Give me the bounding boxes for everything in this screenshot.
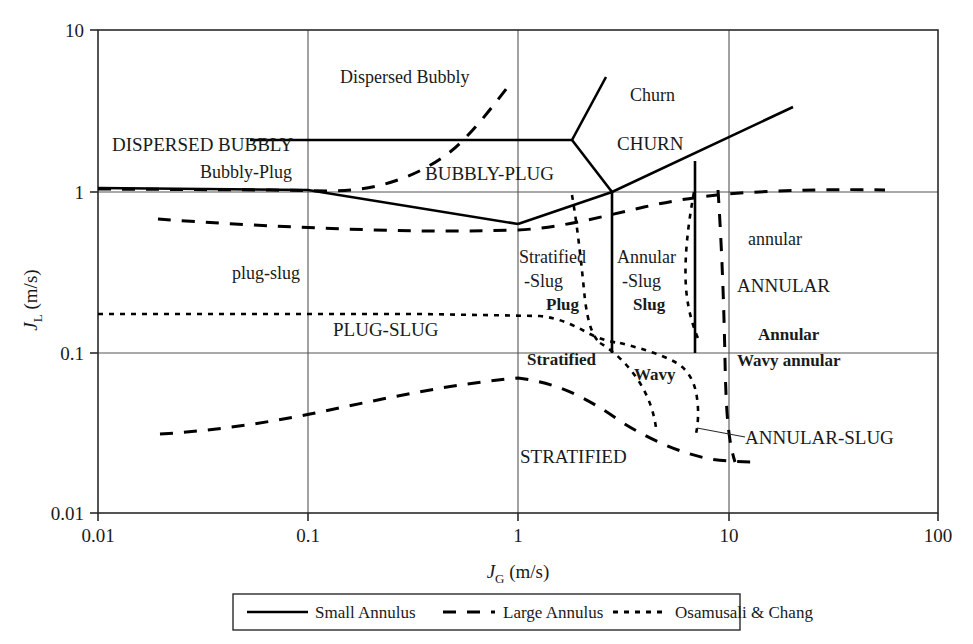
label-wavy-bold: Wavy: [634, 365, 676, 384]
label-bubbly-plug-mixed: Bubbly-Plug: [200, 162, 292, 182]
curve-slug-to-wavy-dotted: [600, 343, 656, 428]
label-plug-slug-caps: PLUG-SLUG: [333, 319, 439, 340]
flow-regime-map-figure: 10 1 0.1 0.01 0.01 0.1 1 10 100 JL (m/s): [0, 0, 973, 644]
label-bubbly-plug-caps: BUBBLY-PLUG: [425, 163, 554, 184]
label-plug-slug-mixed: plug-slug: [232, 263, 300, 283]
series-small-annulus: [98, 77, 793, 353]
label-plug-bold: Plug: [546, 295, 580, 314]
y-axis-title: JL (m/s): [20, 269, 45, 330]
legend-label-large-annulus: Large Annulus: [503, 603, 603, 622]
label-annular-slug-line1: Annular: [617, 247, 676, 267]
curve-stratified-large-lower: [160, 378, 752, 462]
label-churn-mixed: Churn: [630, 85, 675, 105]
label-annular-caps: ANNULAR: [737, 275, 830, 296]
legend-label-small-annulus: Small Annulus: [315, 603, 416, 622]
y-axis-title-subscript: L: [30, 314, 45, 322]
y-tick-label-10: 10: [65, 20, 84, 41]
label-stratified-caps: STRATIFIED: [520, 446, 627, 467]
label-slug-bold: Slug: [633, 295, 666, 314]
legend-border: [233, 594, 740, 630]
label-wavy-annular-bold: Wavy annular: [737, 351, 841, 370]
y-tick-label-0.01: 0.01: [51, 503, 84, 524]
chart-legend: Small Annulus Large Annulus Osamusali & …: [233, 594, 813, 630]
svg-text:JL (m/s): JL (m/s): [20, 269, 45, 330]
curve-churn-left: [572, 140, 612, 192]
x-tick-label-0.1: 0.1: [296, 525, 320, 546]
y-tick-label-1: 1: [75, 182, 85, 203]
curve-annular-slug-large-vertical: [718, 190, 735, 462]
label-stratified-bold: Stratified: [527, 350, 596, 369]
x-axis-ticks: 0.01 0.1 1 10 100: [81, 513, 952, 546]
svg-text:JG (m/s): JG (m/s): [487, 561, 550, 586]
label-annular-slug-caps: ANNULAR-SLUG: [745, 427, 894, 448]
curve-annular-vertical-dotted: [685, 192, 700, 343]
curve-wavy-right-boundary-dotted: [620, 343, 698, 434]
label-dispersed-bubbly-mixed: Dispersed Bubbly: [340, 67, 470, 87]
legend-label-osamusali-chang: Osamusali & Chang: [675, 603, 813, 622]
label-dispersed-bubbly-caps: DISPERSED BUBBLY: [112, 134, 294, 155]
curve-plug-slug-large-upper: [158, 190, 885, 231]
label-stratified-slug-line1: Stratified: [519, 247, 586, 267]
curve-slug-to-annular-diagonal: [518, 107, 793, 224]
y-axis-title-unit: (m/s): [20, 269, 42, 314]
annular-slug-leader-line: [697, 428, 745, 437]
label-stratified-slug-line2: -Slug: [524, 271, 563, 291]
series-osamusali-chang: [98, 192, 700, 434]
x-tick-label-10: 10: [720, 525, 739, 546]
y-tick-label-0.1: 0.1: [60, 343, 84, 364]
label-annular-bold: Annular: [758, 325, 820, 344]
x-axis-title-unit: (m/s): [504, 561, 549, 583]
x-axis-title: JG (m/s): [487, 561, 550, 586]
x-tick-label-0.01: 0.01: [81, 525, 114, 546]
region-annotations: Dispersed Bubbly DISPERSED BUBBLY Bubbly…: [112, 67, 894, 467]
curve-bubbly-plug-to-churn: [572, 77, 606, 140]
label-annular-slug-line2: -Slug: [622, 271, 661, 291]
x-tick-label-1: 1: [513, 525, 523, 546]
flow-regime-chart: 10 1 0.1 0.01 0.01 0.1 1 10 100 JL (m/s): [0, 0, 973, 644]
x-tick-label-100: 100: [924, 525, 953, 546]
y-axis-ticks: 10 1 0.1 0.01: [51, 20, 98, 524]
x-axis-title-subscript: G: [495, 571, 504, 586]
label-churn-caps: CHURN: [617, 133, 684, 154]
label-annular-mixed: annular: [748, 229, 802, 249]
